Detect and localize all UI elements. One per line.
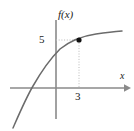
function-label: f(x) xyxy=(58,9,73,20)
x-axis-arrow-icon xyxy=(124,84,131,92)
function-graph-figure: f(x) 5 3 x xyxy=(0,0,134,131)
y-tick-label-5: 5 xyxy=(39,34,45,45)
x-axis-label: x xyxy=(120,71,124,81)
plotted-point-marker xyxy=(76,37,81,42)
x-tick-label-3: 3 xyxy=(75,91,81,102)
function-curve xyxy=(13,31,122,128)
